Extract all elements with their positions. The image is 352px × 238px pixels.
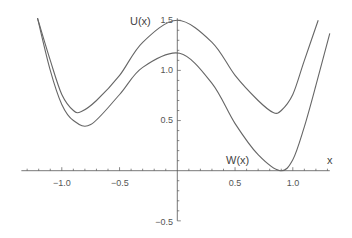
x-tick-label: −1.0 (53, 178, 71, 188)
curve-u (38, 18, 319, 113)
x-axis-label: x (327, 154, 333, 166)
double-well-potential-chart: −1.0 −0.5 0.5 1.0 1.5 1.0 0.5 −0.5 U(x) … (0, 0, 352, 238)
axes (21, 18, 329, 221)
y-tick-label: −0.5 (155, 217, 173, 227)
curve-label-w: W(x) (226, 154, 249, 166)
y-tick-label: 0.5 (160, 115, 173, 125)
tick-marks (27, 20, 327, 221)
x-tick-label: −0.5 (111, 178, 129, 188)
tick-labels: −1.0 −0.5 0.5 1.0 1.5 1.0 0.5 −0.5 (53, 15, 299, 227)
x-tick-label: 1.0 (287, 178, 300, 188)
x-tick-label: 0.5 (229, 178, 242, 188)
y-tick-label: 1.0 (160, 65, 173, 75)
curves (38, 18, 330, 171)
curve-label-u: U(x) (130, 15, 151, 27)
curve-w (38, 18, 330, 171)
